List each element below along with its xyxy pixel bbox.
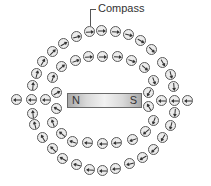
compass-needle-arrow-icon — [58, 63, 65, 70]
compass-needle-arrow-icon — [72, 162, 80, 166]
compass-label: Compass — [98, 2, 144, 14]
compass-needle-arrow-icon — [184, 100, 192, 102]
compass — [126, 55, 137, 66]
compass — [169, 107, 180, 118]
compass-needle-arrow-icon — [128, 137, 136, 142]
compass-needle-arrow-icon — [50, 118, 55, 126]
south-pole-label: S — [130, 94, 137, 107]
compass-needle-arrow-icon — [58, 130, 65, 137]
compass-needle-arrow-icon — [146, 103, 152, 111]
compass — [96, 25, 107, 36]
compass — [71, 159, 82, 170]
compass-needle-arrow-icon — [172, 82, 175, 90]
compass-needle-arrow-icon — [168, 70, 172, 78]
compass-needle-arrow-icon — [31, 109, 34, 117]
compass-needle-arrow-icon — [151, 76, 156, 84]
compass-needle-arrow-icon — [171, 100, 179, 102]
compass — [71, 31, 82, 42]
compass — [26, 94, 37, 105]
compass-needle-arrow-icon — [168, 121, 172, 129]
compass — [27, 80, 38, 91]
compass-needle-arrow-icon — [160, 134, 166, 142]
compass-needle-arrow-icon — [98, 30, 106, 32]
label-leader-line — [90, 9, 91, 26]
compass-needle-arrow-icon — [40, 134, 46, 142]
compass — [157, 132, 168, 143]
compass-needle-arrow-icon — [40, 58, 46, 66]
compass — [47, 143, 58, 154]
compass — [67, 136, 78, 147]
compass-needle-arrow-icon — [99, 56, 107, 58]
compass-needle-arrow-icon — [49, 48, 56, 55]
compass — [97, 165, 108, 176]
compass-needle-arrow-icon — [142, 128, 149, 135]
compass — [124, 158, 135, 169]
compass-needle-arrow-icon — [85, 30, 93, 33]
compass-needle-arrow-icon — [28, 99, 36, 101]
compass — [56, 128, 67, 139]
compass-needle-arrow-icon — [34, 69, 38, 77]
compass — [27, 108, 38, 119]
compass-needle-arrow-icon — [84, 55, 92, 58]
compass — [57, 153, 68, 164]
compass — [40, 94, 51, 105]
compass — [143, 101, 154, 112]
compass — [97, 51, 108, 62]
compass — [143, 87, 154, 98]
compass-needle-arrow-icon — [83, 141, 91, 144]
compass-needle-arrow-icon — [148, 46, 155, 53]
compass-needle-arrow-icon — [60, 41, 68, 47]
compass — [51, 103, 62, 114]
compass-needle-arrow-icon — [112, 141, 120, 144]
compass — [139, 62, 150, 73]
compass — [83, 51, 94, 62]
compass-needle-arrow-icon — [13, 99, 21, 101]
compass-needle-arrow-icon — [49, 145, 56, 152]
compass — [165, 120, 176, 131]
compass — [165, 69, 176, 80]
compass-needle-arrow-icon — [53, 106, 61, 112]
compass — [47, 46, 58, 57]
compass — [123, 29, 134, 40]
compass — [82, 137, 93, 148]
compass — [137, 152, 148, 163]
compass-needle-arrow-icon — [111, 167, 119, 170]
compass — [11, 94, 22, 105]
compass-needle-arrow-icon — [160, 59, 166, 67]
compass-needle-arrow-icon — [31, 81, 34, 89]
compass — [37, 56, 48, 67]
compass — [84, 164, 95, 175]
compass-needle-arrow-icon — [99, 143, 107, 145]
compass-needle-arrow-icon — [85, 168, 93, 171]
compass — [70, 55, 81, 66]
compass-needle-arrow-icon — [32, 120, 36, 128]
compass — [148, 75, 159, 86]
compass — [58, 38, 69, 49]
compass-needle-arrow-icon — [53, 90, 61, 96]
compass — [146, 44, 157, 55]
compass — [148, 115, 159, 126]
compass — [140, 126, 151, 137]
compass — [182, 95, 193, 106]
compass — [156, 95, 167, 106]
bar-magnet: N S — [67, 93, 142, 108]
compass-needle-arrow-icon — [42, 99, 50, 101]
compass-needle-arrow-icon — [141, 64, 148, 71]
north-pole-label: N — [72, 94, 80, 107]
compass — [111, 137, 122, 148]
compass — [31, 68, 42, 79]
compass-needle-arrow-icon — [111, 30, 119, 33]
compass — [110, 163, 121, 174]
compass-needle-arrow-icon — [99, 170, 107, 172]
compass — [169, 95, 180, 106]
compass — [37, 132, 48, 143]
compass-needle-arrow-icon — [173, 108, 176, 116]
compass-needle-arrow-icon — [113, 55, 121, 58]
compass — [51, 87, 62, 98]
compass — [29, 119, 40, 130]
compass — [110, 26, 121, 37]
compass-needle-arrow-icon — [158, 100, 166, 102]
compass-needle-arrow-icon — [139, 155, 147, 161]
compass-needle-arrow-icon — [72, 34, 80, 38]
compass — [127, 134, 138, 145]
